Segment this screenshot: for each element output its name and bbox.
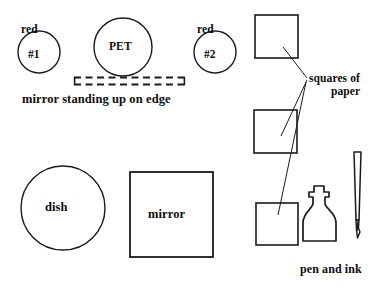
paper-squares-label-line-1: squares of xyxy=(309,72,360,84)
paper-square-top xyxy=(255,15,298,58)
red-sample-1-inside-label: #1 xyxy=(28,48,40,60)
standing-mirror-label: mirror standing up on edge xyxy=(22,93,171,106)
standing-mirror-shape xyxy=(74,77,185,85)
paper-squares-label-line-2: paper xyxy=(331,85,360,97)
ink-bottle-shape xyxy=(303,186,336,241)
diagram-canvas: red #1 PET red #2 mirror standing up on … xyxy=(0,0,390,291)
pet-sample-label: PET xyxy=(109,40,132,52)
red-sample-2-outside-label: red xyxy=(197,23,214,35)
flat-mirror-label: mirror xyxy=(148,208,185,221)
pen-and-ink-label: pen and ink xyxy=(300,263,362,276)
dish-label: dish xyxy=(45,201,68,214)
dip-pen-holder xyxy=(354,152,361,220)
red-sample-1-outside-label: red xyxy=(21,23,38,35)
paper-square-bottom xyxy=(256,203,298,245)
red-sample-2-inside-label: #2 xyxy=(204,48,216,60)
diagram-vector-layer xyxy=(0,0,390,291)
